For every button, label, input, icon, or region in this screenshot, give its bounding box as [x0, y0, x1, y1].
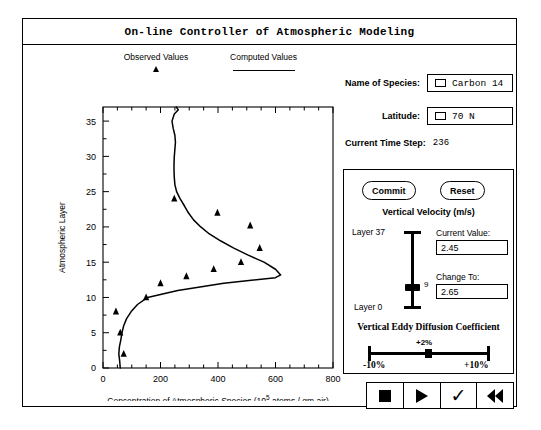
current-value-field: 2.45 — [436, 240, 508, 255]
latitude-row: Latitude: 70 N — [343, 107, 513, 125]
observed-value-marker — [121, 350, 127, 357]
layer-top-label: Layer 37 — [352, 227, 385, 237]
change-to-label: Change To: — [436, 272, 508, 282]
observed-value-marker — [214, 209, 220, 216]
play-icon — [416, 389, 428, 403]
change-to-block: Change To: 2.65 — [436, 272, 508, 299]
species-value: Carbon 14 — [452, 78, 503, 89]
timestep-value: 236 — [433, 138, 449, 148]
velocity-group-title: Vertical Velocity (m/s) — [344, 207, 513, 217]
legend-item-observed: Observed Values — [111, 52, 201, 72]
y-axis-title: Atmospheric Layer — [57, 202, 67, 273]
y-tick-label: 5 — [91, 328, 96, 338]
observed-value-marker — [157, 279, 163, 286]
slider-bottom-cap — [404, 306, 421, 309]
x-tick-label: 200 — [153, 374, 168, 384]
eddy-slider-handle[interactable] — [425, 349, 432, 358]
x-tick-label: 600 — [268, 374, 283, 384]
observed-value-marker — [171, 195, 177, 202]
species-dropdown[interactable]: Carbon 14 — [427, 74, 513, 92]
latitude-label: Latitude: — [382, 111, 420, 121]
dropdown-box-icon — [435, 79, 446, 87]
y-tick-label: 25 — [86, 187, 96, 197]
play-button[interactable] — [404, 383, 441, 408]
commit-button[interactable]: Commit — [362, 181, 416, 200]
application-window: On-line Controller of Atmospheric Modeli… — [22, 18, 517, 407]
eddy-min-label: -10% — [363, 360, 385, 370]
timestep-label: Current Time Step: — [345, 138, 426, 148]
species-row: Name of Species: Carbon 14 — [343, 74, 513, 92]
layer-slider[interactable]: 9 Layer 37 Layer 0 Current Value: 2.45 C… — [344, 226, 513, 316]
eddy-slider[interactable]: +2% -10% +10% — [344, 338, 513, 372]
slider-track — [411, 232, 414, 308]
latitude-dropdown[interactable]: 70 N — [427, 107, 513, 125]
x-tick-label: 400 — [210, 374, 225, 384]
accept-button[interactable]: ✓ — [441, 383, 478, 408]
y-tick-label: 30 — [86, 152, 96, 162]
legend-label-observed: Observed Values — [111, 52, 201, 62]
layer-bottom-label: Layer 0 — [354, 302, 382, 312]
stop-button[interactable] — [367, 383, 404, 408]
change-to-field[interactable]: 2.65 — [436, 284, 508, 299]
triangle-marker-icon — [153, 66, 159, 72]
transport-button-bar: ✓ — [366, 382, 514, 409]
legend-label-computed: Computed Values — [216, 52, 311, 62]
observed-value-marker — [257, 244, 263, 251]
species-label: Name of Species: — [345, 78, 420, 88]
x-tick-label: 0 — [100, 374, 105, 384]
eddy-max-cap — [487, 346, 490, 361]
current-value-label: Current Value: — [436, 228, 508, 238]
plot-frame — [103, 107, 333, 368]
observed-value-marker — [238, 258, 244, 265]
eddy-current-value: +2% — [416, 338, 432, 347]
layer-slider-handle[interactable] — [405, 284, 420, 291]
legend-item-computed: Computed Values — [216, 52, 311, 71]
y-tick-label: 15 — [86, 258, 96, 268]
current-value-block: Current Value: 2.45 — [436, 228, 508, 255]
rewind-icon — [487, 389, 503, 403]
computed-values-line — [119, 107, 281, 368]
checkmark-icon: ✓ — [450, 386, 466, 405]
y-tick-label: 20 — [86, 222, 96, 232]
title-bar: On-line Controller of Atmospheric Modeli… — [23, 19, 516, 45]
observed-value-marker — [113, 308, 119, 315]
observed-value-marker — [247, 222, 253, 229]
observed-value-marker — [183, 272, 189, 279]
dropdown-box-icon — [435, 112, 446, 120]
observed-value-marker — [211, 265, 217, 272]
eddy-group-title: Vertical Eddy Diffusion Coefficient — [344, 322, 513, 332]
y-tick-label: 0 — [91, 363, 96, 373]
x-tick-label: 800 — [325, 374, 340, 384]
reset-button[interactable]: Reset — [440, 181, 485, 200]
page-title: On-line Controller of Atmospheric Modeli… — [125, 26, 415, 38]
latitude-value: 70 N — [452, 111, 475, 122]
layer-slider-value: 9 — [424, 280, 428, 289]
x-axis-title: Concentration of Atmospheric Species (10… — [107, 394, 329, 401]
y-tick-label: 35 — [86, 117, 96, 127]
velocity-control-group: Commit Reset Vertical Velocity (m/s) 9 L… — [343, 169, 514, 374]
rewind-button[interactable] — [477, 383, 513, 408]
timestep-row: Current Time Step: 236 — [343, 138, 515, 148]
concentration-profile-chart: 020040060080005101520253035Atmospheric L… — [51, 81, 341, 401]
chart-canvas: 020040060080005101520253035Atmospheric L… — [51, 81, 341, 401]
chart-legend: Observed Values Computed Values — [101, 52, 331, 78]
stop-icon — [379, 390, 391, 402]
line-marker-icon — [233, 70, 295, 71]
eddy-max-label: +10% — [464, 360, 488, 370]
y-tick-label: 10 — [86, 293, 96, 303]
